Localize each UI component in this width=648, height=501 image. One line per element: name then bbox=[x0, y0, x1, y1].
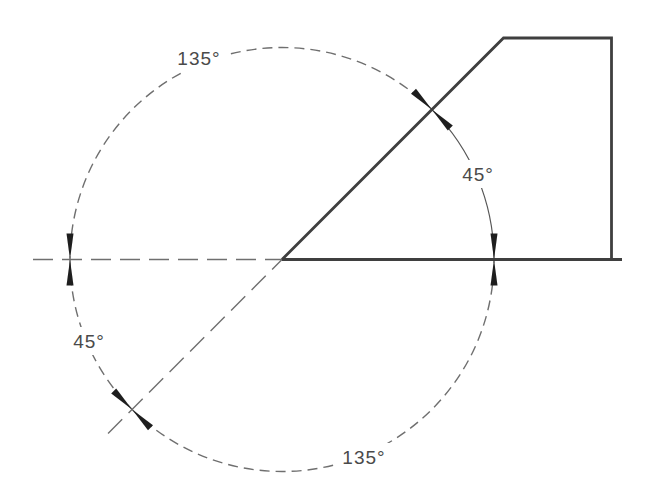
drawing-background bbox=[0, 0, 648, 501]
angle-diagram-svg: 135° 45° 45° 135° bbox=[0, 0, 648, 501]
technical-drawing-canvas: 135° 45° 45° 135° bbox=[0, 0, 648, 501]
angle-label-top-135: 135° bbox=[177, 48, 220, 69]
angle-label-left-45: 45° bbox=[73, 331, 105, 352]
angle-label-bottom-135: 135° bbox=[342, 447, 385, 468]
angle-label-right-45: 45° bbox=[462, 164, 494, 185]
